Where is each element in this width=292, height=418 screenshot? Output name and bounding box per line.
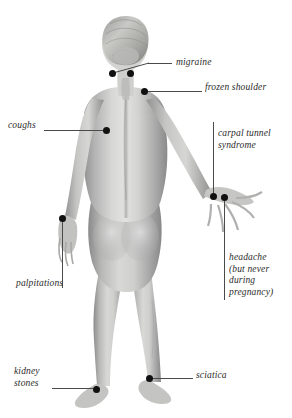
leader-coughs xyxy=(44,130,104,131)
leader-headache xyxy=(224,200,225,300)
leader-kidney-stones xyxy=(52,388,93,389)
label-headache-line-4: pregnancy) xyxy=(229,287,273,297)
marker-frozen-shoulder xyxy=(141,88,148,95)
leader-frozen-shoulder xyxy=(147,91,202,92)
leader-sciatica xyxy=(152,378,193,379)
marker-palpitations xyxy=(59,215,66,222)
marker-coughs xyxy=(103,127,110,134)
marker-carpal-tunnel xyxy=(210,193,217,200)
leader-migraine-horizontal xyxy=(148,63,172,64)
label-migraine: migraine xyxy=(176,57,212,69)
marker-migraine-left xyxy=(109,70,116,77)
marker-headache xyxy=(221,194,228,201)
label-kidney-stones-line-1: kidney xyxy=(14,366,40,376)
marker-kidney-stones xyxy=(93,386,100,393)
label-headache-line-1: headache xyxy=(229,252,267,262)
label-sciatica: sciatica xyxy=(196,370,227,382)
label-kidney-stones: kidneystones xyxy=(14,366,40,389)
label-frozen-shoulder: frozen shoulder xyxy=(205,82,266,94)
marker-migraine-right xyxy=(127,70,134,77)
label-carpal-tunnel-syndrome: carpal tunnelsyndrome xyxy=(218,128,271,151)
leader-carpal-tunnel xyxy=(213,122,214,194)
label-carpal-tunnel-line-2: syndrome xyxy=(218,140,256,150)
label-palpitations: palpitations xyxy=(16,278,63,290)
label-kidney-stones-line-2: stones xyxy=(14,378,39,388)
label-headache-line-3: during xyxy=(229,275,255,285)
body-map-figure: migraine frozen shoulder carpal tunnelsy… xyxy=(0,0,292,418)
label-headache-line-2: (but never xyxy=(229,264,269,274)
label-headache: headache(but neverduringpregnancy) xyxy=(229,252,273,298)
label-carpal-tunnel-line-1: carpal tunnel xyxy=(218,128,271,138)
marker-sciatica xyxy=(146,375,153,382)
label-coughs: coughs xyxy=(8,120,36,132)
